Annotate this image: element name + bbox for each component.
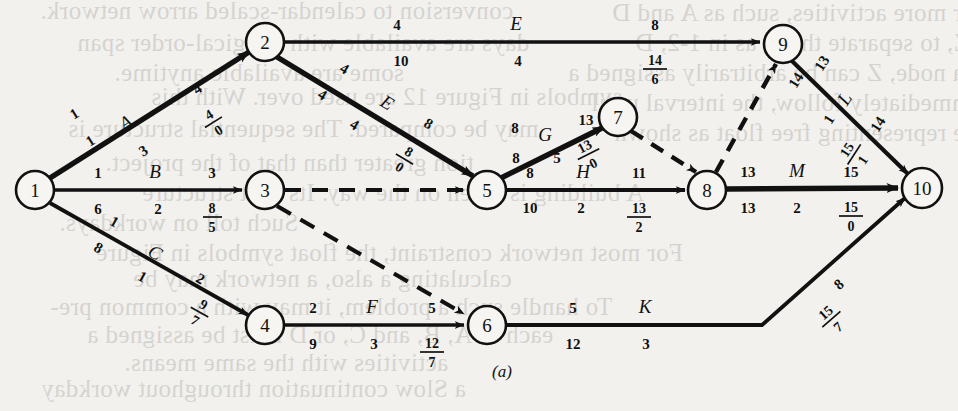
activity-early-start-K: 5: [569, 300, 577, 316]
activity-duration-C: 1: [135, 268, 149, 286]
node-label: 7: [613, 107, 623, 128]
activity-duration-F: 3: [370, 336, 378, 352]
activity-name-B: B: [149, 161, 161, 182]
activity-float-fraction-A: 4 0: [197, 103, 231, 142]
activity-name-K: K: [638, 296, 653, 317]
activity-early-finish-K: 8: [831, 276, 847, 293]
activity-float-fraction-B: 8 5: [203, 201, 222, 235]
activity-late-start-C: 8: [91, 239, 105, 257]
activity-early-start-D: 4: [393, 17, 401, 33]
activity-early-finish-H: 11: [632, 165, 646, 181]
activity-early-start-M: 13: [741, 164, 756, 180]
activity-name-E: E: [376, 90, 398, 115]
activity-early-finish-G: 13: [579, 112, 594, 128]
node-9[interactable]: 9: [764, 25, 802, 63]
node-label: 1: [30, 180, 40, 201]
activity-early-start-L: 13: [811, 53, 833, 74]
activity-late-finish-D: 14: [648, 53, 662, 68]
activity-duration-B: 2: [154, 201, 162, 217]
activity-duration-M: 2: [793, 200, 801, 216]
node-4[interactable]: 4: [246, 306, 284, 344]
activity-late-finish-F: 12: [425, 336, 439, 351]
node-5[interactable]: 5: [468, 171, 506, 209]
activity-label-group-A: A 1 1 3 4 4 0: [67, 80, 231, 160]
activity-duration-D: 4: [514, 53, 522, 69]
activity-name-F: F: [365, 296, 378, 317]
activity-name-G: G: [538, 124, 552, 145]
figure-caption: (a): [492, 362, 512, 382]
node-7[interactable]: 7: [599, 98, 637, 136]
activity-arrow-E: [277, 57, 473, 176]
activity-float-fraction-K: 15 7: [812, 299, 852, 340]
node-3[interactable]: 3: [246, 171, 284, 209]
activity-late-finish-K: 15: [816, 303, 836, 324]
activity-label-group-K: K 5 12 3 8 15 7: [566, 276, 853, 352]
activity-float-fraction-H: 13 2: [627, 201, 651, 235]
activity-early-start-B: 1: [94, 165, 102, 181]
activity-label-group-C: C 1 8 1 2 9 7: [91, 213, 216, 332]
activity-duration-L: 1: [820, 112, 838, 127]
node-label: 5: [482, 180, 492, 201]
activity-duration-G: 5: [553, 150, 561, 166]
activity-late-finish-M: 15: [844, 200, 858, 215]
activity-name-C: C: [145, 240, 167, 265]
node-label: 3: [260, 180, 270, 201]
activity-early-start-A: 1: [67, 105, 82, 123]
activity-name-D: E: [509, 13, 522, 34]
node-6[interactable]: 6: [468, 306, 506, 344]
activity-float-fraction-M: 15 0: [839, 200, 863, 234]
activity-arrow-A: [50, 52, 249, 178]
activity-total-float-K: 7: [831, 319, 846, 335]
activity-total-float-H: 2: [636, 220, 643, 235]
activity-total-float-F: 7: [429, 355, 436, 370]
activity-label-group-F: F 2 9 3 5 12 7: [309, 296, 444, 370]
activity-late-finish-H: 13: [632, 201, 646, 216]
activity-early-start-F: 2: [309, 300, 317, 316]
activity-late-start-G: 8: [512, 150, 520, 166]
node-label: 4: [260, 315, 270, 336]
activity-float-fraction-D: 14 6: [643, 53, 667, 87]
node-2[interactable]: 2: [246, 23, 284, 61]
activity-late-finish-B: 8: [209, 201, 216, 216]
activity-early-finish-M: 15: [844, 164, 859, 180]
activity-label-group-H: H 8 10 2 11 13 2: [523, 161, 652, 235]
activity-late-start-A: 1: [83, 132, 98, 150]
activity-early-finish-F: 5: [428, 300, 436, 316]
activity-label-group-D: E 4 10 4 8 14 6: [393, 13, 667, 87]
activity-label-group-M: M 13 13 2 15 15 0: [741, 160, 864, 234]
node-1[interactable]: 1: [16, 171, 54, 209]
activity-arrow-K: [506, 198, 905, 325]
activity-late-start-H: 10: [523, 200, 538, 216]
activity-early-finish-L: 14: [867, 113, 889, 135]
activity-late-finish-L: 15: [837, 140, 857, 160]
activity-total-float-C: 7: [188, 312, 201, 329]
activity-late-start-F: 9: [309, 336, 317, 352]
activity-late-start-K: 12: [566, 336, 581, 352]
node-10[interactable]: 10: [902, 168, 942, 208]
activity-name-H: H: [575, 161, 591, 182]
activity-float-fraction-E: 8 0: [387, 140, 421, 179]
activity-late-finish-E: 8: [402, 144, 416, 160]
activity-late-finish-A: 4: [202, 107, 216, 123]
activity-float-fraction-C: 9 7: [182, 293, 215, 332]
activity-early-start-G: 8: [511, 120, 519, 136]
activity-total-float-D: 6: [652, 72, 659, 87]
activity-duration-E: 4: [347, 116, 362, 134]
activity-early-start-C: 1: [107, 213, 121, 231]
activity-early-finish-B: 3: [208, 165, 216, 181]
node-label: 9: [778, 34, 788, 55]
node-label: 2: [260, 32, 270, 53]
activity-early-start-H: 8: [526, 165, 534, 181]
activity-total-float-M: 0: [848, 219, 855, 234]
node-8[interactable]: 8: [688, 171, 726, 209]
activity-late-start-M: 13: [741, 200, 756, 216]
activity-total-float-A: 0: [212, 122, 226, 138]
activity-late-start-E: 4: [315, 86, 330, 104]
activity-early-finish-E: 8: [421, 115, 436, 133]
node-label: 6: [482, 315, 492, 336]
activity-late-start-D: 10: [394, 53, 409, 69]
activity-total-float-B: 5: [209, 220, 216, 235]
activity-early-finish-D: 8: [651, 17, 659, 33]
node-label: 10: [913, 178, 932, 199]
network-diagram: 1 2 3 4 5 6 7 8 9 10 A 1 1 3 4: [0, 0, 958, 411]
